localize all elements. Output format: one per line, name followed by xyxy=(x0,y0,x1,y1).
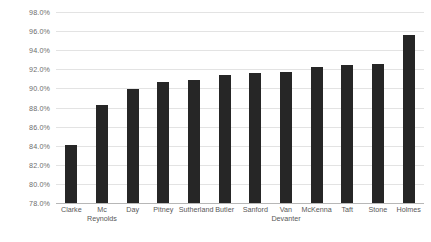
ytick-label-80: 80.0% xyxy=(6,179,50,188)
bar xyxy=(311,67,323,203)
category-label: Mc Reynolds xyxy=(87,205,118,224)
category-label: Clarke xyxy=(56,205,87,214)
bar xyxy=(157,82,169,203)
ytick-label-88: 88.0% xyxy=(6,103,50,112)
ytick-label-98: 98.0% xyxy=(6,8,50,17)
bar-chart: 98.0% 96.0% 94.0% 92.0% 90.0% 88.0% 86.0… xyxy=(0,0,431,242)
category-label: Holmes xyxy=(393,205,424,214)
bar xyxy=(372,64,384,203)
bar xyxy=(403,35,415,203)
bar xyxy=(65,145,77,203)
category-labels: ClarkeMc ReynoldsDayPitneySutherlandButl… xyxy=(56,205,424,239)
bar xyxy=(219,75,231,203)
category-label: Sanford xyxy=(240,205,271,214)
ytick-label-96: 96.0% xyxy=(6,27,50,36)
category-label: McKenna xyxy=(301,205,332,214)
ytick-label-82: 82.0% xyxy=(6,160,50,169)
bar xyxy=(249,73,261,203)
category-label: Sutherland xyxy=(179,205,210,214)
category-label: Day xyxy=(117,205,148,214)
category-label: Pitney xyxy=(148,205,179,214)
category-label: Stone xyxy=(363,205,394,214)
category-label: Butler xyxy=(209,205,240,214)
bars-layer xyxy=(56,12,424,203)
bar xyxy=(188,80,200,203)
ytick-label-92: 92.0% xyxy=(6,65,50,74)
ytick-label-90: 90.0% xyxy=(6,84,50,93)
category-label: Van Devanter xyxy=(271,205,302,224)
bar xyxy=(280,72,292,203)
axis-baseline xyxy=(56,203,424,204)
ytick-label-94: 94.0% xyxy=(6,46,50,55)
ytick-label-84: 84.0% xyxy=(6,141,50,150)
bar xyxy=(96,105,108,203)
bar xyxy=(341,65,353,203)
ytick-label-86: 86.0% xyxy=(6,122,50,131)
bar xyxy=(127,89,139,203)
category-label: Taft xyxy=(332,205,363,214)
ytick-label-78: 78.0% xyxy=(6,199,50,208)
